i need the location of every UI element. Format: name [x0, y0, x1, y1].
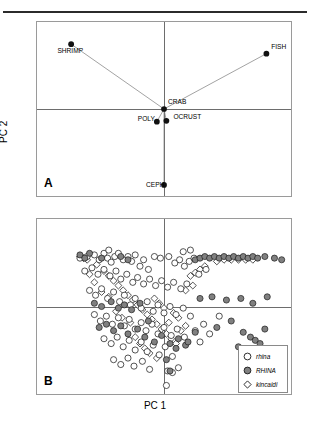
legend-item-rhina: rhina — [243, 349, 287, 363]
point-rhina-upper — [151, 339, 157, 345]
point-rhina — [118, 361, 124, 367]
loading-label-shrimp: SHRIMP — [57, 47, 83, 54]
point-rhina — [147, 276, 153, 282]
loading-point-crab — [161, 106, 167, 112]
point-rhina-upper — [279, 257, 285, 263]
point-rhina — [124, 271, 130, 277]
point-rhina-upper — [175, 336, 181, 342]
point-rhina — [156, 352, 162, 358]
point-rhina-upper — [240, 329, 246, 335]
point-rhina — [145, 266, 151, 272]
point-rhina — [201, 321, 207, 327]
point-rhina-upper — [125, 257, 131, 263]
point-rhina — [161, 324, 167, 330]
point-rhina — [95, 271, 101, 277]
figure-pca-biplot: A SHRIMPFISHCRABOCRUSTPOLYCEPH B rhina R… — [0, 0, 310, 421]
point-rhina — [115, 315, 121, 321]
panel-b-letter: B — [44, 375, 53, 387]
open-diamond-icon — [243, 380, 252, 389]
point-rhina — [167, 303, 173, 309]
point-rhina — [147, 366, 153, 372]
loading-label-fish: FISH — [271, 43, 286, 50]
point-rhina — [118, 276, 124, 282]
point-kincaidi — [91, 279, 98, 286]
point-rhina-upper — [192, 329, 198, 335]
loading-vector-shrimp — [71, 44, 164, 109]
point-kincaidi — [151, 295, 158, 302]
point-rhina — [171, 279, 177, 285]
legend-label-rhina: rhina — [256, 353, 270, 360]
point-rhina — [184, 281, 190, 287]
point-rhina — [130, 279, 136, 285]
point-rhina — [187, 247, 193, 253]
point-rhina-upper — [125, 331, 131, 337]
axis-label-pc2: PC 2 — [0, 121, 9, 143]
point-rhina — [109, 321, 115, 327]
point-kincaidi — [189, 282, 196, 289]
point-rhina-upper — [142, 334, 148, 340]
point-rhina — [137, 263, 143, 269]
legend-label-rhina-upper: RHINA — [256, 367, 276, 374]
point-rhina-upper — [96, 324, 102, 330]
panel-a-letter: A — [44, 177, 53, 189]
point-rhina — [196, 271, 202, 277]
point-rhina — [97, 318, 103, 324]
point-rhina — [144, 299, 150, 305]
point-rhina — [166, 253, 172, 259]
point-rhina — [175, 365, 181, 371]
point-rhina — [101, 266, 107, 272]
point-rhina — [92, 292, 98, 298]
point-rhina — [107, 273, 113, 279]
point-rhina-upper — [98, 303, 104, 309]
point-rhina-upper — [262, 326, 268, 332]
point-rhina-upper — [185, 339, 191, 345]
point-rhina — [141, 257, 147, 263]
point-rhina — [157, 255, 163, 261]
filled-circle-icon — [243, 366, 252, 375]
point-rhina-upper — [159, 332, 165, 338]
loading-point-fish — [264, 51, 270, 57]
point-rhina — [141, 281, 147, 287]
point-rhina — [138, 320, 144, 326]
point-rhina — [216, 313, 222, 319]
legend-item-rhina-upper: RHINA — [243, 363, 287, 377]
point-rhina — [197, 339, 203, 345]
point-rhina-upper — [223, 297, 229, 303]
point-rhina-upper — [173, 345, 179, 351]
point-rhina — [207, 331, 213, 337]
point-rhina-upper — [121, 302, 127, 308]
point-rhina-upper — [197, 295, 203, 301]
point-rhina-upper — [214, 324, 220, 330]
point-rhina-upper — [255, 255, 261, 261]
point-rhina — [108, 341, 114, 347]
point-rhina — [178, 286, 184, 292]
point-rhina-upper — [163, 357, 169, 363]
point-rhina-upper — [137, 300, 143, 306]
point-rhina — [173, 311, 179, 317]
point-rhina-upper — [86, 250, 92, 256]
point-rhina-upper — [91, 300, 97, 306]
point-rhina — [108, 259, 114, 265]
point-rhina-upper — [264, 294, 270, 300]
axis-label-pc1: PC 1 — [0, 400, 310, 411]
point-rhina-upper — [228, 318, 234, 324]
point-rhina — [144, 349, 150, 355]
point-rhina-upper — [115, 305, 121, 311]
point-rhina — [82, 268, 88, 274]
point-rhina — [203, 266, 209, 272]
point-rhina — [150, 308, 156, 314]
legend: rhina RHINA kincaidi — [238, 345, 288, 393]
open-circle-icon — [243, 352, 252, 361]
point-rhina — [103, 313, 109, 319]
point-rhina — [187, 313, 193, 319]
point-rhina — [91, 311, 97, 317]
point-rhina-upper — [250, 300, 256, 306]
point-rhina — [114, 334, 120, 340]
point-rhina — [181, 263, 187, 269]
point-rhina — [121, 292, 127, 298]
point-rhina-upper — [103, 321, 109, 327]
point-rhina — [98, 286, 104, 292]
point-rhina-upper — [111, 328, 117, 334]
point-kincaidi — [182, 322, 189, 329]
point-kincaidi — [144, 311, 151, 318]
